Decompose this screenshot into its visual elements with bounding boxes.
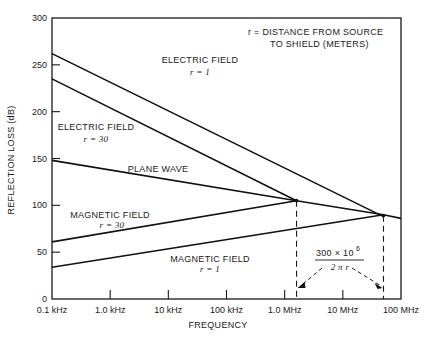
distance-note-line1: r = DISTANCE FROM SOURCE [248,27,383,37]
y-tick-label: 50 [37,247,47,257]
label-electric-r30-line2: r = 30 [84,134,109,144]
series-lines [52,54,401,268]
series-line-magnetic-field-r-30 [52,201,297,242]
formula-numerator: 300 × 10 [316,248,354,258]
y-tick-label: 200 [32,107,47,117]
label-magnetic-r1-line2: r = 1 [200,264,220,274]
x-tick-label: 100 kHz [210,305,244,315]
label-plane-wave: PLANE WAVE [128,164,189,174]
x-tick-label: 0.1 kHz [37,305,68,315]
x-tick-label: 1.0 kHz [95,305,126,315]
y-tick-label: 250 [32,60,47,70]
label-electric-r1-line2: r = 1 [190,67,210,77]
y-tick-label: 100 [32,200,47,210]
x-tick-label: 1.0 MHz [268,305,302,315]
y-axis-ticks: 050100150200250300 [32,13,60,304]
label-electric-r30-line1: ELECTRIC FIELD [58,122,135,132]
y-axis-title: REFLECTION LOSS (dB) [6,105,16,214]
formula-denominator: 2 π r [331,262,350,272]
y-tick-label: 0 [42,294,47,304]
reflection-loss-chart: 050100150200250300 0.1 kHz1.0 kHz10 kHz1… [0,0,434,342]
crossover-point [382,214,386,218]
label-magnetic-r30-line1: MAGNETIC FIELD [70,210,150,220]
label-electric-r1-line1: ELECTRIC FIELD [162,55,239,65]
y-tick-label: 150 [32,154,47,164]
label-magnetic-r30-line2: r = 30 [100,220,125,230]
label-magnetic-r1-line1: MAGNETIC FIELD [170,254,250,264]
y-tick-label: 300 [32,13,47,23]
x-tick-label: 10 MHz [327,305,359,315]
x-tick-label: 100 MHz [383,305,420,315]
arrow-right-line [352,268,379,285]
distance-note-line2: TO SHIELD (METERS) [270,39,369,49]
arrow-left-head [298,282,306,288]
x-axis-ticks: 0.1 kHz1.0 kHz10 kHz100 kHz1.0 MHz10 MHz… [37,290,420,315]
formula-exponent: 6 [356,245,360,252]
crossover-formula: 300 × 10 6 2 π r [315,245,364,272]
x-tick-label: 10 kHz [154,305,183,315]
x-axis-title: FREQUENCY [188,320,247,330]
crossover-point [295,199,299,203]
